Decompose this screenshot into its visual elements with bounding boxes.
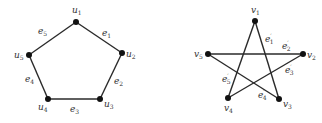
node-v1 (252, 18, 258, 24)
node-v4 (225, 95, 231, 101)
node-label-u1: u1 (72, 5, 82, 16)
pentagon-graph: e1e2e3e4e5u1u2u3u4u5 (14, 5, 136, 115)
edge-label-e3-prime: e′3 (285, 63, 294, 76)
node-label-v1: v1 (251, 5, 260, 16)
edge-label-e2-prime: e′2 (282, 39, 291, 52)
node-label-u4: u4 (38, 102, 48, 113)
node-label-v3: v3 (283, 99, 292, 110)
node-u5 (26, 52, 32, 58)
graph-diagram: e1e2e3e4e5u1u2u3u4u5 e′1e′2e′3e′4e′5v1v2… (0, 0, 322, 123)
edge-label-e2: e2 (114, 76, 123, 87)
node-label-v2: v2 (307, 50, 316, 61)
node-u4 (45, 96, 51, 102)
node-v5 (205, 51, 211, 57)
edge-v3-v5 (208, 54, 279, 99)
edge-u4-u5 (29, 55, 48, 99)
edge-label-e1: e1 (102, 28, 111, 39)
edge-u1-u2 (76, 22, 122, 53)
edge-u5-u1 (29, 22, 76, 55)
node-label-v4: v4 (224, 103, 233, 114)
edge-label-e4: e4 (25, 74, 34, 85)
node-label-v5: v5 (194, 49, 203, 60)
edge-label-e1-prime: e′1 (265, 32, 274, 45)
node-label-u5: u5 (14, 50, 24, 61)
node-label-u3: u3 (104, 99, 114, 110)
edge-label-e5-prime: e′5 (222, 72, 231, 85)
node-v2 (300, 51, 306, 57)
node-u1 (73, 19, 79, 25)
edge-v2-v4 (228, 54, 303, 98)
node-u2 (119, 50, 125, 56)
edge-v4-v1 (228, 21, 255, 98)
edge-label-e3: e3 (70, 104, 79, 115)
node-label-u2: u2 (126, 49, 136, 60)
node-v3 (276, 96, 282, 102)
node-u3 (97, 96, 103, 102)
edge-label-e5: e5 (38, 26, 47, 37)
edge-v1-v3 (255, 21, 279, 99)
pentagram-graph: e′1e′2e′3e′4e′5v1v2v3v4v5 (194, 5, 316, 114)
